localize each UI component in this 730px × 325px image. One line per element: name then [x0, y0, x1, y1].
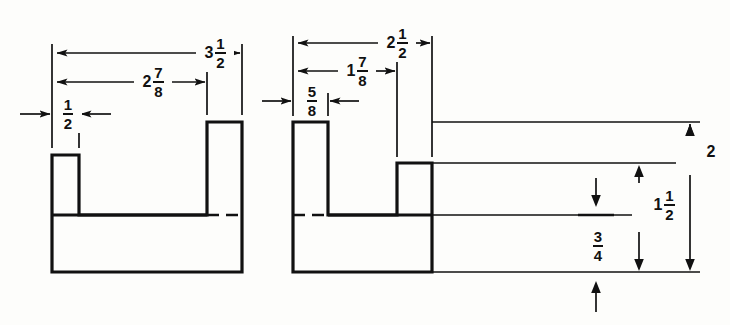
left-dim-notch-label: 2 7 8 [134, 63, 172, 101]
right-dim-tab-label: 1 7 8 [338, 52, 376, 90]
right-dim-tabtop-numerator: 1 [664, 188, 674, 203]
right-dim-tabtop-whole: 1 [653, 196, 664, 214]
right-dim-tab-whole: 1 [346, 62, 357, 80]
right-dim-base-fraction: 3 4 [593, 229, 603, 263]
right-dim-flange-fraction: 5 8 [307, 84, 317, 118]
engineering-drawing-sheet [0, 0, 730, 325]
left-dim-overall-denominator: 2 [215, 55, 225, 70]
right-dim-overall-width-label: 2 1 2 [378, 24, 416, 62]
right-dim-overall-whole: 2 [386, 34, 397, 52]
left-dim-tab-numerator: 1 [63, 97, 73, 112]
right-dim-flange-denominator: 8 [307, 103, 317, 118]
right-dim-tabtop-denominator: 2 [664, 207, 674, 222]
right-dim-flange-width-label: 5 8 [298, 82, 326, 120]
right-dim-tabtop-height-label: 1 1 2 [645, 185, 683, 225]
right-dim-tab-fraction: 7 8 [357, 54, 367, 88]
right-dim-overall-fraction: 1 2 [397, 26, 407, 60]
left-dim-tab-fraction: 1 2 [63, 97, 73, 131]
left-dim-notch-denominator: 8 [153, 84, 163, 99]
right-dim-overall-numerator: 1 [397, 26, 407, 41]
right-dim-base-denominator: 4 [593, 248, 603, 263]
left-dim-tab-width-label: 1 2 [54, 95, 82, 133]
left-dim-overall-numerator: 1 [215, 36, 225, 51]
right-dim-flange-numerator: 5 [307, 84, 317, 99]
left-dim-notch-fraction: 7 8 [153, 65, 163, 99]
left-dim-overall-whole: 3 [204, 44, 215, 62]
right-dim-base-numerator: 3 [593, 229, 603, 244]
right-dim-base-height-label: 3 4 [584, 226, 612, 266]
left-dim-tab-denominator: 2 [63, 116, 73, 131]
right-dim-height-whole: 2 [707, 143, 718, 161]
right-dim-tabtop-fraction: 1 2 [664, 188, 674, 222]
left-dim-overall-width-label: 3 1 2 [196, 34, 234, 72]
right-dim-tab-denominator: 8 [357, 73, 367, 88]
right-dim-overall-height-label: 2 [700, 140, 724, 164]
right-dim-overall-denominator: 2 [397, 45, 407, 60]
right-dim-tab-numerator: 7 [357, 54, 367, 69]
left-dim-overall-fraction: 1 2 [215, 36, 225, 70]
left-dim-notch-whole: 2 [142, 73, 153, 91]
left-dim-notch-numerator: 7 [153, 65, 163, 80]
